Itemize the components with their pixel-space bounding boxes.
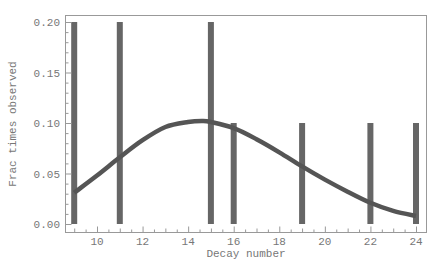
y-tick-label: 0.00 (34, 219, 60, 231)
x-tick-label: 12 (136, 236, 149, 248)
x-tick-label: 18 (273, 236, 286, 248)
bar (117, 22, 123, 224)
bar (231, 123, 237, 224)
y-tick-label: 0.05 (34, 169, 60, 181)
bar (367, 123, 373, 224)
x-tick-label: 22 (364, 236, 377, 248)
x-tick-label: 10 (90, 236, 103, 248)
x-tick-label: 20 (318, 236, 331, 248)
y-axis-label: Frac times observed (7, 61, 19, 186)
y-tick-label: 0.10 (34, 118, 60, 130)
y-tick-label: 0.15 (34, 68, 60, 80)
bar (299, 123, 305, 224)
chart: 0.000.050.100.150.20 1012141618202224 De… (0, 0, 448, 268)
x-tick-label: 16 (227, 236, 240, 248)
y-tick-label: 0.20 (34, 17, 60, 29)
bar (413, 123, 419, 224)
x-axis-label: Decay number (206, 248, 285, 260)
x-tick-label: 24 (409, 236, 423, 248)
x-tick-label: 14 (182, 236, 196, 248)
